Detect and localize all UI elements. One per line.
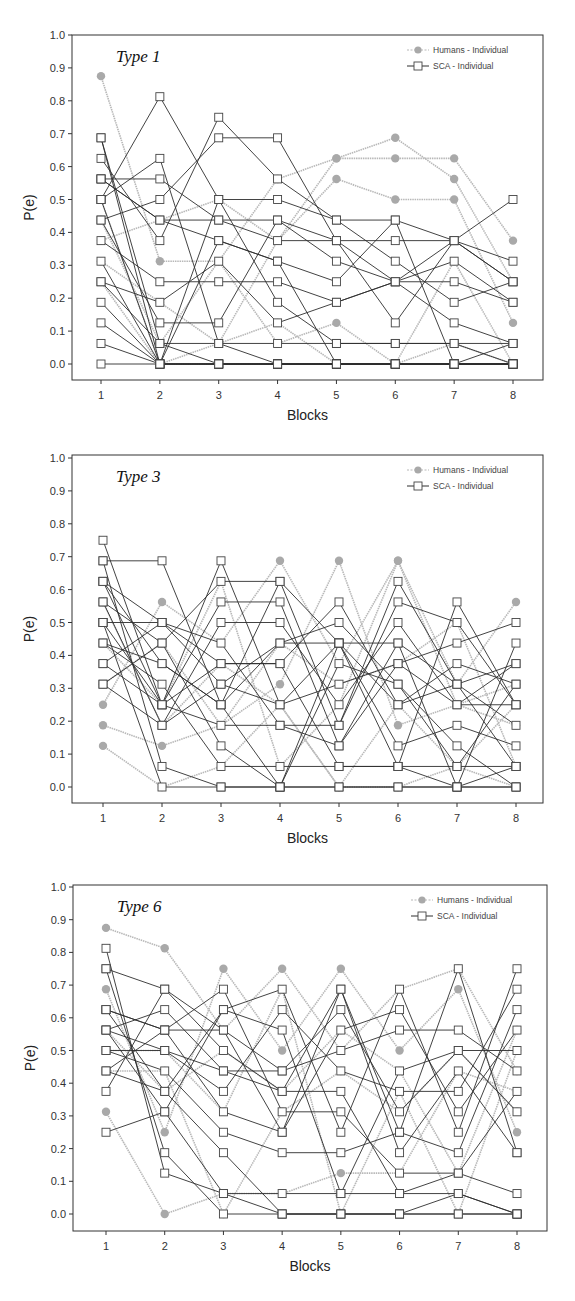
chart-type-6-svg: 0.00.10.20.30.40.50.60.70.80.91.01234567… (0, 0, 575, 1301)
y-tick-label: 0.6 (51, 1012, 66, 1024)
humans-line (106, 1051, 517, 1215)
sca-marker (454, 1210, 462, 1218)
sca-marker (337, 1047, 345, 1055)
humans-marker (513, 1087, 521, 1095)
x-tick-label: 5 (338, 1240, 344, 1252)
sca-marker (337, 1006, 345, 1014)
sca-marker (513, 1149, 521, 1157)
sca-marker (513, 985, 521, 993)
sca-marker (396, 1149, 404, 1157)
y-tick-label: 0.7 (51, 979, 66, 991)
humans-marker (454, 1046, 462, 1054)
x-tick-label: 4 (279, 1240, 285, 1252)
sca-marker (278, 985, 286, 993)
humans-marker (161, 1067, 169, 1075)
humans-marker (219, 965, 227, 973)
humans-marker (454, 965, 462, 973)
sca-marker (219, 1190, 227, 1198)
sca-marker (161, 1108, 169, 1116)
y-tick-label: 0.0 (51, 1208, 66, 1220)
sca-marker (102, 1128, 110, 1136)
chart-type-6: 0.00.10.20.30.40.50.60.70.80.91.01234567… (0, 0, 575, 1301)
sca-marker (396, 1108, 404, 1116)
sca-marker (102, 1067, 110, 1075)
sca-marker (454, 1108, 462, 1116)
sca-marker (454, 1169, 462, 1177)
sca-line (106, 1010, 517, 1071)
humans-series-group (102, 924, 521, 1219)
humans-marker (513, 1067, 521, 1075)
sca-marker (278, 1149, 286, 1157)
sca-marker (161, 1026, 169, 1034)
sca-marker (278, 1210, 286, 1218)
sca-marker (102, 1006, 110, 1014)
x-tick-label: 7 (455, 1240, 461, 1252)
humans-marker (337, 965, 345, 973)
humans-marker (161, 1210, 169, 1218)
sca-marker (337, 1026, 345, 1034)
sca-marker (278, 1087, 286, 1095)
humans-marker (513, 1128, 521, 1136)
sca-marker (513, 1067, 521, 1075)
x-tick-label: 8 (514, 1240, 520, 1252)
humans-marker (278, 1189, 286, 1197)
humans-marker (454, 985, 462, 993)
x-tick-label: 1 (103, 1240, 109, 1252)
sca-line (106, 1112, 517, 1214)
sca-marker (102, 1006, 110, 1014)
sca-marker (337, 1087, 345, 1095)
humans-marker (513, 1026, 521, 1034)
sca-line (106, 969, 517, 1153)
y-tick-label: 0.4 (51, 1077, 66, 1089)
sca-line (106, 989, 517, 1153)
sca-marker (396, 985, 404, 993)
sca-marker (513, 1149, 521, 1157)
humans-marker (337, 1210, 345, 1218)
sca-marker (513, 1210, 521, 1218)
y-tick-label: 0.9 (51, 914, 66, 926)
sca-marker (513, 1210, 521, 1218)
sca-marker (278, 1087, 286, 1095)
x-tick-label: 2 (162, 1240, 168, 1252)
sca-marker (396, 1210, 404, 1218)
sca-marker (219, 1006, 227, 1014)
sca-marker (454, 965, 462, 973)
sca-marker (396, 1128, 404, 1136)
humans-marker (219, 1046, 227, 1054)
sca-marker (161, 1047, 169, 1055)
sca-marker (337, 1210, 345, 1218)
sca-marker (161, 1026, 169, 1034)
sca-marker (396, 1190, 404, 1198)
sca-marker (219, 1108, 227, 1116)
sca-marker (102, 1026, 110, 1034)
sca-line (106, 1010, 517, 1194)
sca-marker (396, 1087, 404, 1095)
plot-frame (73, 885, 547, 1231)
sca-marker (337, 1190, 345, 1198)
sca-marker (278, 1190, 286, 1198)
sca-marker (454, 1149, 462, 1157)
humans-marker (395, 1108, 403, 1116)
sca-marker (102, 1026, 110, 1034)
sca-marker (219, 1087, 227, 1095)
humans-marker (337, 1169, 345, 1177)
humans-line (106, 989, 517, 1214)
legend-sca-marker-icon (418, 912, 426, 920)
sca-marker (161, 1087, 169, 1095)
y-tick-label: 0.1 (51, 1175, 66, 1187)
y-axis-title: P(e) (22, 1045, 38, 1071)
humans-line (106, 1030, 517, 1173)
sca-marker (102, 1067, 110, 1075)
sca-marker (337, 1108, 345, 1116)
sca-line (106, 1010, 517, 1153)
sca-marker (102, 944, 110, 952)
humans-marker (161, 1046, 169, 1054)
sca-marker (396, 1128, 404, 1136)
sca-marker (513, 1210, 521, 1218)
sca-marker (337, 1210, 345, 1218)
humans-marker (102, 1026, 110, 1034)
sca-marker (396, 1210, 404, 1218)
sca-marker (161, 1047, 169, 1055)
chart-title: Type 6 (117, 897, 162, 916)
humans-marker (454, 1067, 462, 1075)
